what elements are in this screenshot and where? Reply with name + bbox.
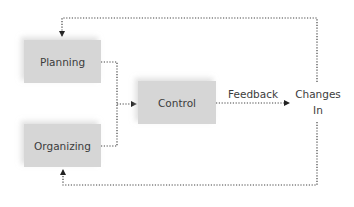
diagram-canvas: Planning Organizing Control Feedback Cha…: [0, 0, 354, 207]
organizing-box: Organizing: [24, 124, 101, 167]
changes-in-label-line2: In: [292, 104, 344, 116]
feedback-label: Feedback: [228, 88, 278, 100]
changes-to-organizing-loop: [63, 122, 317, 185]
planning-to-control-connector: [101, 62, 117, 104]
control-label: Control: [158, 97, 196, 109]
control-box: Control: [138, 81, 216, 124]
organizing-to-control-connector: [101, 104, 117, 146]
changes-in-label-line1: Changes: [292, 88, 344, 100]
organizing-label: Organizing: [34, 140, 91, 152]
changes-in-node: Changes In: [292, 88, 344, 116]
planning-box: Planning: [24, 40, 101, 83]
planning-label: Planning: [40, 56, 85, 68]
